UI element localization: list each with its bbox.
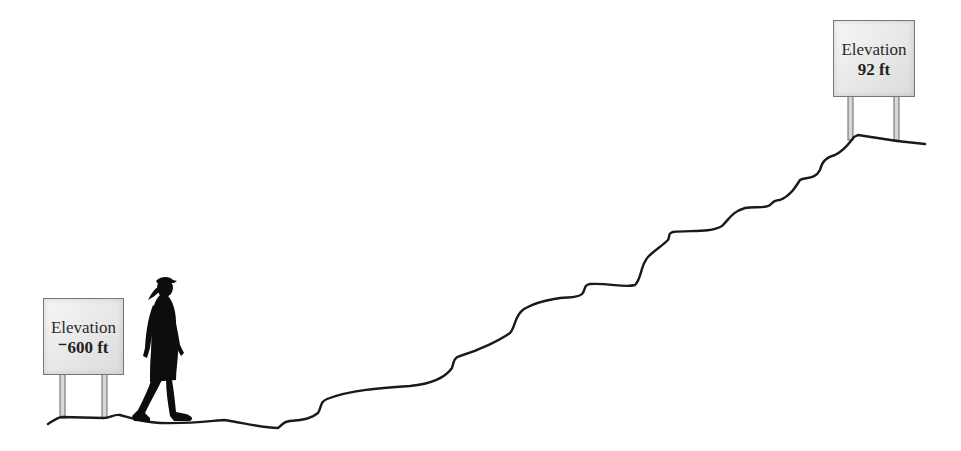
summit-sign-value: 92 ft bbox=[834, 60, 914, 80]
summit-elevation-sign: Elevation 92 ft bbox=[833, 20, 915, 97]
start-sign-value: ⁻600 ft bbox=[44, 338, 123, 358]
elevation-scene bbox=[0, 0, 961, 451]
right-sign-posts bbox=[848, 96, 899, 140]
left-sign-posts bbox=[60, 374, 107, 418]
hiker-silhouette-icon bbox=[132, 277, 192, 422]
summit-sign-title: Elevation bbox=[834, 40, 914, 60]
terrain-line bbox=[48, 135, 925, 428]
start-elevation-sign: Elevation ⁻600 ft bbox=[43, 298, 124, 375]
start-sign-title: Elevation bbox=[44, 318, 123, 338]
